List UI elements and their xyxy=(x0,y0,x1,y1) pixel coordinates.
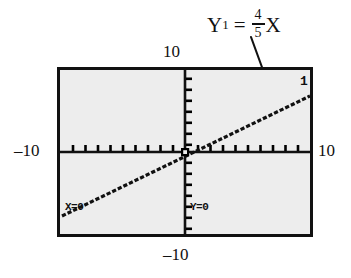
trace-marker-label: 1 xyxy=(300,76,307,87)
equation-label: Y1 = 4 5 X xyxy=(207,9,281,41)
axis-label-bottom: –10 xyxy=(163,246,189,263)
calculator-screen-inner: X=0 Y=0 1 xyxy=(60,70,310,234)
equation-equals-sign: = xyxy=(234,13,246,37)
screen-label-y-intercept: Y=0 xyxy=(190,202,208,213)
axis-label-top: 10 xyxy=(163,43,180,60)
axis-label-left: –10 xyxy=(14,142,40,159)
plot-canvas xyxy=(60,70,310,234)
graph-figure: 10 –10 10 –10 Y1 = 4 5 X xyxy=(0,0,351,278)
screen-label-x-intercept: X=0 xyxy=(65,202,83,213)
equation-variable: Y xyxy=(207,13,222,37)
fraction-denominator: 5 xyxy=(253,26,264,40)
equation-trailing-variable: X xyxy=(266,13,281,37)
equation-fraction: 4 5 xyxy=(252,8,265,40)
axis-label-right: 10 xyxy=(318,142,335,159)
calculator-screen: X=0 Y=0 1 xyxy=(57,67,313,237)
fraction-numerator: 4 xyxy=(253,8,264,22)
